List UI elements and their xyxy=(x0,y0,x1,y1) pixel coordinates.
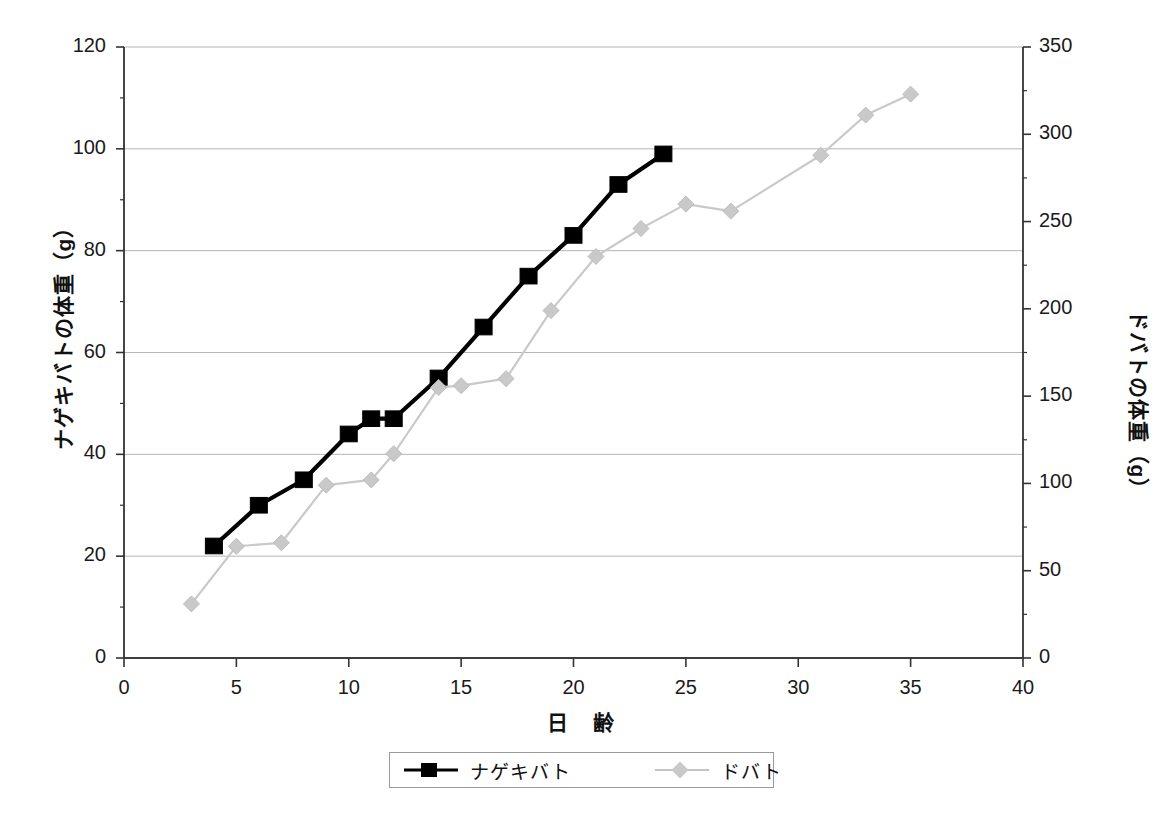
y-tick-label-right: 300 xyxy=(1039,121,1099,144)
series-line-2 xyxy=(191,94,910,604)
data-point-marker-square xyxy=(250,497,267,513)
x-tick-label: 25 xyxy=(656,676,716,699)
data-point-marker-square xyxy=(520,268,537,284)
y-tick-label-left: 80 xyxy=(46,238,106,261)
data-point-marker-diamond xyxy=(678,196,694,212)
legend-marker-diamond-icon xyxy=(655,762,709,778)
y-tick-label-left: 0 xyxy=(46,645,106,668)
data-point-marker-diamond xyxy=(453,378,469,394)
x-tick-label: 0 xyxy=(94,676,154,699)
y-tick-label-right: 200 xyxy=(1039,296,1099,319)
series-line-1 xyxy=(214,154,664,546)
y-tick-label-right: 100 xyxy=(1039,470,1099,493)
legend-item-primary[interactable]: ナゲキバト xyxy=(404,753,571,787)
data-point-marker-square xyxy=(295,472,312,488)
y-tick-label-left: 60 xyxy=(46,340,106,363)
y-tick-label-right: 0 xyxy=(1039,645,1099,668)
data-point-marker-diamond xyxy=(498,371,514,387)
data-point-marker-diamond xyxy=(633,221,649,237)
data-point-marker-square xyxy=(610,177,627,193)
data-point-marker-square xyxy=(385,411,402,427)
legend-item-secondary[interactable]: ドバト xyxy=(655,753,782,787)
data-point-marker-square xyxy=(565,228,582,244)
y-tick-label-left: 100 xyxy=(46,136,106,159)
x-tick-label: 30 xyxy=(768,676,828,699)
y-tick-label-left: 120 xyxy=(46,34,106,57)
legend-label-primary: ナゲキバト xyxy=(470,757,571,784)
x-tick-label: 5 xyxy=(206,676,266,699)
data-point-marker-square xyxy=(475,319,492,335)
data-point-marker-square xyxy=(340,426,357,442)
x-tick-label: 40 xyxy=(993,676,1053,699)
x-tick-label: 10 xyxy=(319,676,379,699)
data-point-marker-square xyxy=(655,146,672,162)
data-point-marker-diamond xyxy=(903,86,919,102)
y-tick-label-right: 250 xyxy=(1039,209,1099,232)
chart-figure: ナゲキバトの体重（g） ドバトの体重（g） 日 齢 02040608010012… xyxy=(0,0,1163,826)
y-tick-label-right: 150 xyxy=(1039,383,1099,406)
legend-marker-square-icon xyxy=(404,762,458,778)
plot-area xyxy=(0,0,1163,826)
y-tick-label-left: 40 xyxy=(46,441,106,464)
x-tick-label: 20 xyxy=(544,676,604,699)
chart-legend: ナゲキバト ドバト xyxy=(389,752,774,788)
y-tick-label-right: 50 xyxy=(1039,558,1099,581)
x-tick-label: 35 xyxy=(881,676,941,699)
x-tick-label: 15 xyxy=(431,676,491,699)
y-tick-label-left: 20 xyxy=(46,543,106,566)
data-point-marker-diamond xyxy=(723,203,739,219)
data-point-marker-square xyxy=(205,538,222,554)
y-tick-label-right: 350 xyxy=(1039,34,1099,57)
legend-label-secondary: ドバト xyxy=(721,757,782,784)
data-point-marker-square xyxy=(363,411,380,427)
